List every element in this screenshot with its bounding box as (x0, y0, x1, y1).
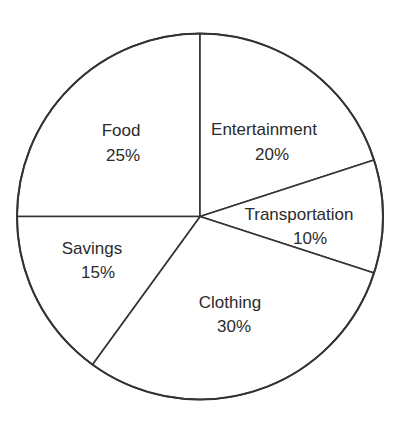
slice-value: 10% (293, 229, 327, 248)
slice-name: Transportation (245, 205, 354, 224)
slice-value: 20% (255, 145, 289, 164)
slice-value: 30% (217, 317, 251, 336)
slice-value: 25% (106, 146, 140, 165)
pie-chart: Food 25% Entertainment 20% Transportatio… (0, 0, 404, 421)
slice-name: Clothing (199, 293, 261, 312)
slice-value: 15% (81, 263, 115, 282)
slice-name: Food (102, 121, 141, 140)
slice-name: Entertainment (211, 120, 317, 139)
slice-name: Savings (62, 239, 122, 258)
